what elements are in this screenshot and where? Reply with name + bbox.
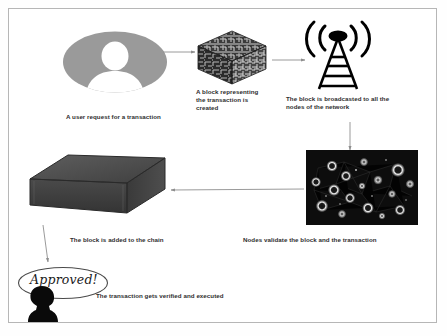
circuit-cube-icon [196, 29, 268, 86]
blockchain-flow-diagram: A user request for a transaction [0, 0, 447, 336]
person-silhouette-icon [25, 286, 59, 322]
chain-block-icon [24, 153, 167, 229]
approved-label: Approved! [30, 272, 98, 287]
caption-user-request: A user request for a transaction [66, 113, 186, 121]
caption-nodes-validate: Nodes validate the block and the transac… [243, 236, 443, 244]
caption-block-created: A block representing the transaction is … [196, 88, 278, 113]
caption-block-broadcasted: The block is broadcasted to all the node… [286, 95, 412, 111]
network-nodes-icon [306, 150, 418, 225]
user-avatar-icon [62, 31, 168, 93]
radio-tower-icon [292, 21, 384, 91]
caption-block-added: The block is added to the chain [70, 236, 220, 244]
caption-transaction-verified: The transaction gets verified and execut… [96, 292, 326, 300]
